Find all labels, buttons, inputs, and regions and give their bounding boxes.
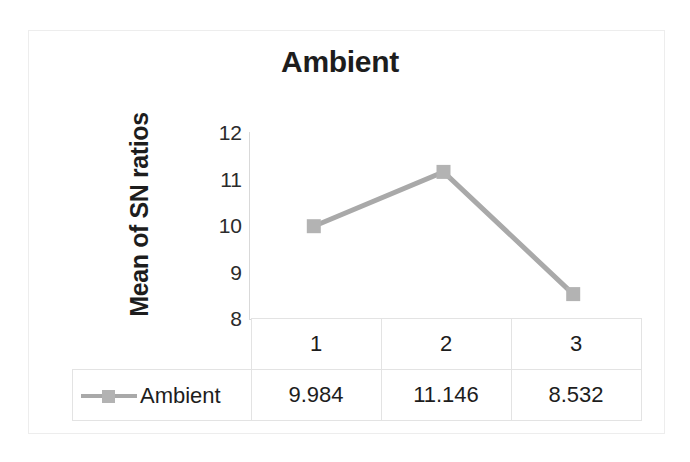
legend-marker-icon xyxy=(81,387,137,405)
series-line-ambient xyxy=(249,132,638,320)
y-tick-label: 11 xyxy=(196,168,242,192)
data-point-marker xyxy=(307,219,321,233)
data-point-marker xyxy=(566,287,580,301)
legend-square-icon xyxy=(102,390,115,403)
table-row: Ambient 9.984 11.146 8.532 xyxy=(73,370,642,421)
plot-area xyxy=(249,132,638,319)
series-markers xyxy=(307,165,580,301)
series-polyline xyxy=(314,172,573,294)
legend-entry-ambient: Ambient xyxy=(73,370,252,421)
table-value-cell: 8.532 xyxy=(511,370,641,421)
chart-title: Ambient xyxy=(200,45,480,79)
table-row-categories: 1 2 3 xyxy=(73,319,642,370)
table-header-cell: 1 xyxy=(251,319,381,370)
data-point-marker xyxy=(437,165,451,179)
data-table: 1 2 3 Ambient 9.984 11.146 8.532 xyxy=(72,318,642,421)
legend-label: Ambient xyxy=(140,383,221,409)
table-header-cell: 2 xyxy=(381,319,511,370)
table-value-cell: 11.146 xyxy=(381,370,511,421)
y-tick-label: 12 xyxy=(196,121,242,145)
table-value-cell: 9.984 xyxy=(251,370,381,421)
table-header-cell: 3 xyxy=(511,319,641,370)
table-corner-cell xyxy=(73,319,252,370)
y-tick-label: 9 xyxy=(196,261,242,285)
y-tick-label: 10 xyxy=(196,214,242,238)
